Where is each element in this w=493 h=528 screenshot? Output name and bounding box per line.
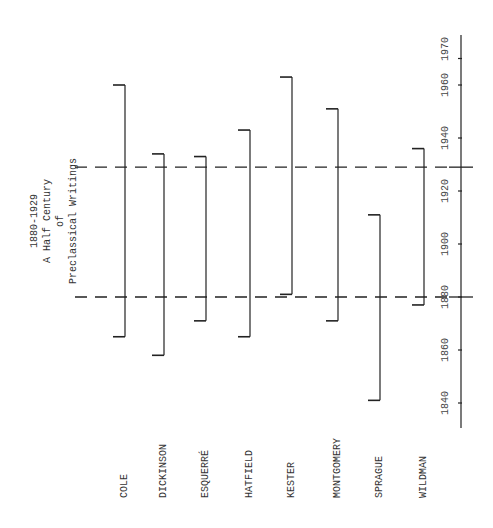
diagram-title: 1880-1929 A Half Century of Preclassical… <box>28 146 80 296</box>
author-name-label: COLE <box>119 474 130 498</box>
axis-tick-label: 1900 <box>440 232 451 256</box>
author-name-label: SPRAGUE <box>374 456 385 498</box>
author-name-label: MONTGOMERY <box>332 438 343 498</box>
axis-tick-label: 1860 <box>440 338 451 362</box>
title-line-3: of <box>54 146 67 296</box>
axis-tick-label: 1960 <box>440 73 451 97</box>
author-name-label: DICKINSON <box>158 444 169 498</box>
title-line-2: A Half Century <box>41 146 54 296</box>
axis-tick-label: 1940 <box>440 126 451 150</box>
author-name-label: ESQUERRÉ <box>200 450 211 498</box>
axis-tick-label: 1840 <box>440 391 451 415</box>
axis-tick-label: 1880 <box>440 285 451 309</box>
title-years: 1880-1929 <box>28 146 41 296</box>
axis-tick-label: 1920 <box>440 179 451 203</box>
author-name-label: HATFIELD <box>244 450 255 498</box>
author-name-label: WILDMAN <box>418 456 429 498</box>
title-line-4: Preclassical Writings <box>67 146 80 296</box>
author-name-label: KESTER <box>286 462 297 498</box>
axis-tick-label: 1970 <box>440 36 451 60</box>
